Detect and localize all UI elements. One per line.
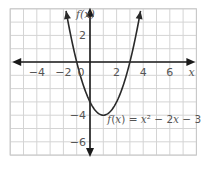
- y-axis-title: f(x): [75, 8, 95, 21]
- function-graph: −4−202462−4−6 f(x) x f(x) = x² − 2x − 3: [0, 0, 208, 174]
- x-tick-label: −4: [29, 66, 45, 79]
- y-tick-label: 2: [79, 29, 86, 42]
- grid: [10, 9, 196, 155]
- function-label-part: ² − 2: [147, 113, 173, 125]
- x-axis-left-arrow-icon: [12, 58, 21, 66]
- y-tick-label: −6: [70, 136, 86, 149]
- function-label: f(x) = x² − 2x − 3: [106, 113, 201, 125]
- function-label-part: − 3: [179, 113, 201, 125]
- x-tick-label: −2: [55, 66, 71, 79]
- y-tick-label: −4: [70, 109, 86, 122]
- x-axis-right-arrow-icon: [186, 58, 195, 66]
- x-tick-label: 2: [113, 66, 120, 79]
- x-tick-label: 4: [140, 66, 147, 79]
- y-axis-down-arrow-icon: [86, 148, 94, 157]
- x-axis-title: x: [188, 66, 195, 79]
- x-tick-label: 0: [78, 66, 85, 79]
- x-tick-label: 6: [166, 66, 173, 79]
- function-label-part: ) =: [121, 113, 141, 125]
